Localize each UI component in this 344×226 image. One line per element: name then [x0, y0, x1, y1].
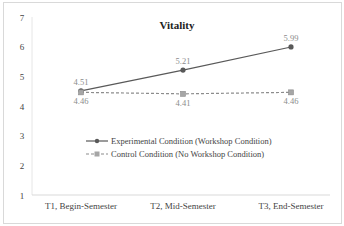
- legend-marker: [95, 152, 100, 157]
- data-label: 4.51: [74, 77, 89, 87]
- data-label: 5.99: [284, 33, 299, 43]
- data-marker: [79, 90, 84, 95]
- data-marker: [288, 44, 293, 49]
- data-label: 5.21: [176, 56, 191, 66]
- x-tick-label: T1, Begin-Semester: [45, 201, 117, 211]
- x-axis: T1, Begin-SemesterT2, Mid-SemesterT3, En…: [45, 201, 323, 211]
- y-tick-label: 4: [20, 102, 25, 112]
- legend-label: Control Condition (No Workshop Condition…: [111, 149, 264, 159]
- legend: Experimental Condition (Workshop Conditi…: [86, 136, 272, 159]
- legend-marker: [95, 139, 99, 143]
- legend-label: Experimental Condition (Workshop Conditi…: [111, 136, 272, 146]
- x-tick-label: T3, End-Semester: [259, 201, 324, 211]
- data-marker: [180, 68, 185, 73]
- data-label: 4.41: [176, 98, 191, 108]
- vitality-line-chart: Vitality 1234567 T1, Begin-SemesterT2, M…: [0, 0, 344, 226]
- series-line: [81, 92, 291, 93]
- series-group: 4.515.215.994.464.414.46: [74, 33, 299, 108]
- y-tick-label: 3: [20, 131, 25, 141]
- data-marker: [289, 90, 294, 95]
- y-tick-label: 5: [20, 72, 25, 82]
- y-tick-label: 1: [20, 191, 25, 201]
- series-line: [81, 47, 291, 91]
- data-label: 4.46: [74, 96, 89, 106]
- data-marker: [181, 91, 186, 96]
- chart-title: Vitality: [159, 19, 195, 31]
- data-label: 4.46: [284, 96, 299, 106]
- y-tick-label: 7: [20, 13, 25, 23]
- y-tick-label: 2: [20, 161, 25, 171]
- x-tick-label: T2, Mid-Semester: [150, 201, 216, 211]
- y-tick-label: 6: [20, 42, 25, 52]
